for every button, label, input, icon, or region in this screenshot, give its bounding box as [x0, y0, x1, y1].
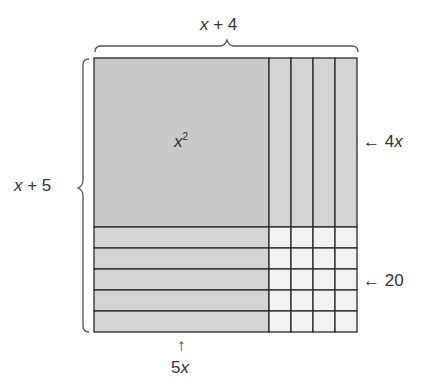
area-model-figure [0, 0, 427, 392]
x-squared-exponent: 2 [183, 131, 189, 142]
top-brace [95, 40, 358, 52]
top-label-var: x [200, 15, 209, 34]
four-x-coef: 4 [385, 132, 394, 151]
left-arrow-icon: ← [363, 132, 380, 151]
left-label-var: x [14, 176, 23, 195]
x-squared-base: x [174, 132, 183, 151]
twenty-value: 20 [385, 271, 404, 290]
left-arrow-icon: ← [363, 271, 380, 290]
left-brace [78, 59, 89, 332]
twenty-label: ← 20 [363, 271, 404, 291]
five-x-var: x [180, 358, 189, 377]
horizontal-x-strips [94, 227, 269, 332]
vertical-x-strips [269, 58, 357, 227]
four-x-label: ← 4x [363, 132, 403, 152]
left-dimension-label: x + 5 [14, 176, 51, 196]
unit-squares [269, 227, 357, 332]
five-x-label: 5x [171, 358, 189, 378]
top-dimension-label: x + 4 [200, 15, 237, 35]
left-label-rest: + 5 [23, 176, 52, 195]
top-label-rest: + 4 [209, 15, 238, 34]
x-squared-label: x2 [174, 131, 188, 152]
up-arrow-icon: ↑ [177, 336, 186, 356]
four-x-var: x [394, 132, 403, 151]
